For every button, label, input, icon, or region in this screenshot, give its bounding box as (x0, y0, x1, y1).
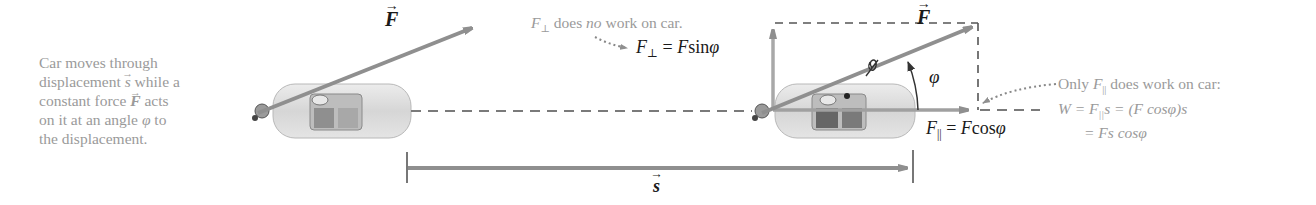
displacement-label: s (653, 176, 660, 197)
caption-line-3: constant force F acts (39, 91, 180, 110)
caption-line-1: Car moves through (39, 53, 180, 72)
parallel-equation: F|| = Fcosφ (926, 118, 1006, 141)
caption-line-4: on it at an angle φ to (39, 110, 180, 129)
caption-left: Car moves through displacement s while a… (39, 53, 180, 148)
car-left (252, 84, 411, 138)
perp-note: F⊥ does no work on car. (531, 14, 683, 34)
caption-line-2: displacement s while a (39, 72, 180, 91)
work-note-line-1: Only F|| does work on car: (1058, 74, 1221, 99)
work-equation-line-2: = Fs cosφ (1058, 123, 1221, 142)
perp-note-pointer (595, 37, 627, 48)
work-equation-line-1: W = F||s = (F cosφ)s (1058, 99, 1221, 124)
work-note: Only F|| does work on car: W = F||s = (F… (1058, 74, 1221, 142)
perp-equation: F⊥ = Fsinφ (636, 37, 719, 60)
work-note-pointer (983, 84, 1056, 103)
caption-line-5: the displacement. (39, 129, 180, 148)
angle-phi-label: φ (929, 66, 940, 88)
vector-f-symbol: F (130, 91, 140, 110)
force-label-left: F (385, 8, 398, 31)
force-label-right: F (917, 6, 930, 29)
